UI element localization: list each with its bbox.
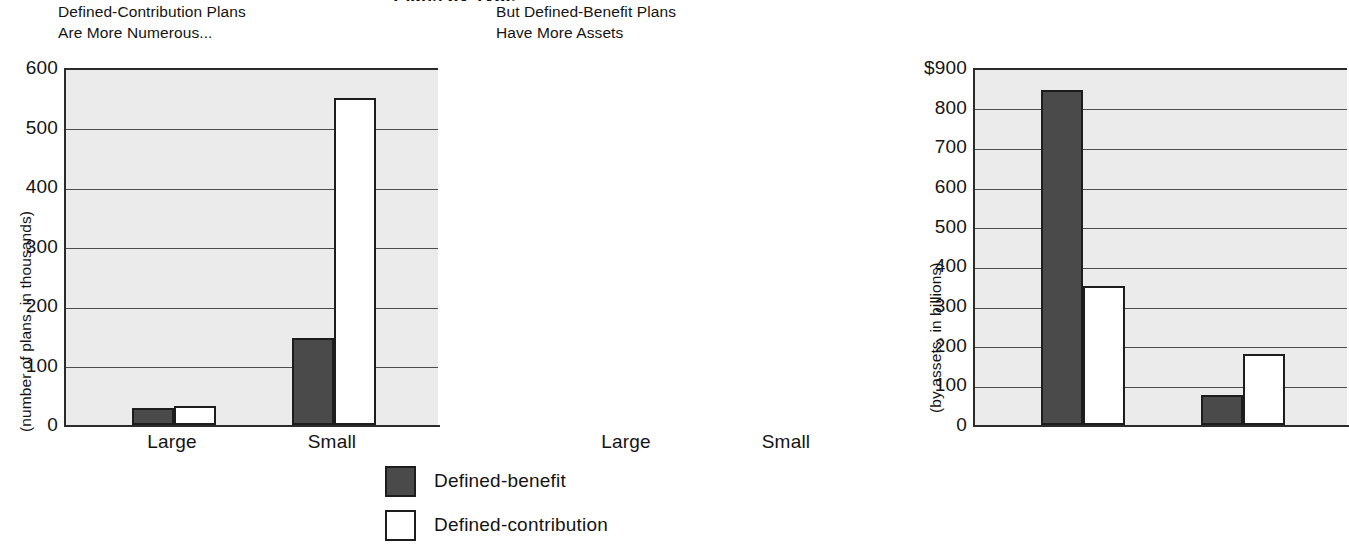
- bar-large-defined-contribution: [1083, 286, 1125, 425]
- bars-left: [66, 70, 438, 425]
- chart-panels: Defined-Contribution Plans Are More Nume…: [0, 0, 909, 460]
- legend-swatch-defined-contribution: [385, 510, 416, 541]
- y-axis-tick-label: 200: [895, 335, 967, 357]
- bar-large-defined-contribution: [174, 406, 216, 425]
- y-axis-tick-label: 200: [2, 295, 58, 317]
- y-axis-tick-label: 300: [895, 295, 967, 317]
- legend-item-defined-contribution: Defined-contribution: [385, 503, 815, 547]
- bar-large-defined-benefit: [1041, 90, 1083, 425]
- y-axis-tick-label: 500: [895, 216, 967, 238]
- legend-label-defined-benefit: Defined-benefit: [434, 470, 566, 492]
- y-axis-tick-label: 300: [2, 236, 58, 258]
- legend-item-defined-benefit: Defined-benefit: [385, 459, 815, 503]
- x-axis-ticks-left: LargeSmall: [0, 431, 455, 457]
- x-axis-tick-label: Small: [762, 431, 811, 453]
- x-axis-tick-label: Large: [147, 431, 197, 453]
- chart-panel-assets: But Defined-Benefit Plans Have More Asse…: [455, 0, 909, 460]
- y-axis-tick-label: 400: [2, 176, 58, 198]
- y-axis-tick-label: 100: [2, 355, 58, 377]
- bar-small-defined-benefit: [1201, 395, 1243, 425]
- chart-panel-plans: Defined-Contribution Plans Are More Nume…: [0, 0, 455, 460]
- x-axis-line-right: [973, 425, 1349, 427]
- x-axis-line-left: [64, 425, 440, 427]
- bar-small-defined-contribution: [1243, 354, 1285, 425]
- chart-title-left: Defined-Contribution Plans Are More Nume…: [58, 2, 246, 43]
- y-axis-tick-label: 700: [895, 136, 967, 158]
- x-axis-tick-label: Small: [308, 431, 357, 453]
- legend-swatch-defined-benefit: [385, 466, 416, 497]
- x-axis-tick-label: Large: [601, 431, 651, 453]
- plot-area-right: [973, 68, 1347, 425]
- y-axis-tick-label: 600: [895, 176, 967, 198]
- bar-small-defined-benefit: [292, 338, 334, 425]
- y-axis-tick-label: 600: [2, 57, 58, 79]
- plot-area-left: [64, 68, 438, 425]
- y-axis-tick-label: 500: [2, 117, 58, 139]
- chart-title-right: But Defined-Benefit Plans Have More Asse…: [496, 2, 676, 43]
- y-axis-tick-label: $900: [895, 57, 967, 79]
- x-axis-ticks-right: LargeSmall: [455, 431, 909, 457]
- y-axis-tick-label: 800: [895, 97, 967, 119]
- legend-label-defined-contribution: Defined-contribution: [434, 514, 608, 536]
- chart-legend: Defined-benefit Defined-contribution: [385, 459, 815, 547]
- y-axis-tick-label: 100: [895, 374, 967, 396]
- y-axis-tick-label: 400: [895, 255, 967, 277]
- bars-right: [975, 70, 1347, 425]
- bar-small-defined-contribution: [334, 98, 376, 425]
- bar-large-defined-benefit: [132, 408, 174, 425]
